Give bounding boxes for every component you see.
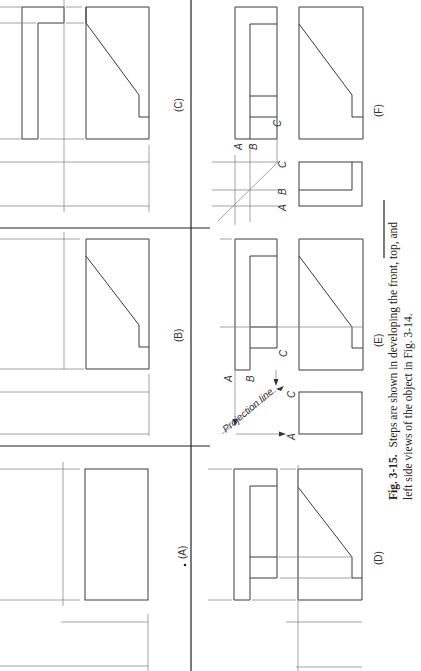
label-a-e-top: A	[223, 375, 234, 383]
caption-line-2: left side views of the object in Fig. 3-…	[402, 313, 415, 500]
caption-line-1: Steps are shown in developing the front,…	[387, 222, 400, 448]
label-a-f-top: A	[233, 143, 244, 151]
textbook-page: (C) (B) (A)	[0, 0, 421, 671]
bullet-dot	[184, 564, 187, 567]
label-a-f-side: A	[277, 204, 288, 212]
panel-a-drawing	[0, 462, 148, 671]
figure-caption: Fig. 3-15. Steps are shown in developing…	[387, 222, 415, 500]
svg-text:left side views of the object: left side views of the object in Fig. 3-…	[402, 313, 415, 500]
panel-b-drawing	[0, 232, 149, 436]
panel-label-b: (B)	[173, 329, 184, 342]
panel-label-f: (F)	[373, 104, 384, 117]
label-c-e-side: C	[286, 390, 297, 398]
label-a-e-side: A	[286, 433, 297, 441]
panel-e-drawing	[220, 239, 363, 437]
label-c-f-top: C	[272, 119, 283, 127]
label-b-e-top: B	[245, 375, 256, 382]
figure-number: Fig. 3-15.	[387, 454, 400, 500]
orthographic-projection-figure: (C) (B) (A)	[0, 0, 421, 671]
label-c-e-top: C	[278, 349, 289, 357]
panel-d-drawing	[208, 465, 362, 671]
projection-line-label: Projection line	[220, 385, 276, 434]
panel-label-c: (C)	[173, 98, 184, 112]
panel-label-e: (E)	[373, 334, 384, 347]
panel-label-a: (A)	[177, 546, 188, 559]
label-b-f-side: B	[277, 188, 288, 195]
svg-text:Fig. 3-15. Steps are sho: Fig. 3-15. Steps are shown in developing…	[387, 222, 400, 500]
label-b-f-top: B	[248, 143, 259, 150]
panel-c-drawing	[0, 0, 149, 212]
panel-label-d: (D)	[373, 551, 384, 565]
label-c-f-side: C	[277, 160, 288, 168]
